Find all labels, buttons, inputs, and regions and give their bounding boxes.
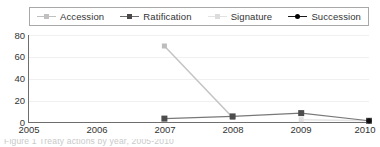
y-axis-labels: 0 20 40 60 80: [0, 35, 25, 123]
line-chart-figure: Accession Ratification Signature Success…: [0, 0, 380, 147]
legend-label-accession: Accession: [60, 12, 104, 22]
legend-label-succession: Succession: [311, 12, 361, 22]
legend-item-ratification[interactable]: Ratification: [120, 12, 191, 22]
series-ratification: [161, 110, 372, 124]
x-tick-label-2005: 2005: [18, 124, 39, 135]
figure-caption-clipped: Figure 1 Treaty actions by year, 2005-20…: [0, 139, 380, 147]
series-succession: [366, 118, 371, 123]
x-tick-label-2010: 2010: [354, 124, 375, 135]
x-tick-label-2009: 2009: [290, 124, 311, 135]
figure-caption-text: Figure 1 Treaty actions by year, 2005-20…: [4, 139, 174, 146]
legend-item-signature[interactable]: Signature: [208, 12, 273, 22]
signature-series-icon: [208, 12, 227, 21]
chart-legend: Accession Ratification Signature Success…: [29, 7, 369, 26]
ratification-series-icon: [120, 12, 139, 21]
accession-series-icon: [37, 12, 56, 21]
legend-item-accession[interactable]: Accession: [37, 12, 104, 22]
legend-label-signature: Signature: [231, 12, 273, 22]
x-axis-labels: 2005 2006 2007 2008 2009 2010: [0, 124, 380, 137]
x-tick-label-2006: 2006: [86, 124, 107, 135]
series-plot: [28, 35, 369, 123]
x-tick-label-2007: 2007: [154, 124, 175, 135]
succession-series-icon: [288, 12, 307, 21]
y-tick-label-80: 80: [1, 31, 25, 40]
series-accession: [162, 44, 235, 121]
x-tick-label-2008: 2008: [222, 124, 243, 135]
y-tick-label-20: 20: [1, 96, 25, 105]
legend-label-ratification: Ratification: [143, 12, 191, 22]
y-tick-label-60: 60: [1, 52, 25, 61]
y-tick-label-40: 40: [1, 74, 25, 83]
legend-item-succession[interactable]: Succession: [288, 12, 361, 22]
